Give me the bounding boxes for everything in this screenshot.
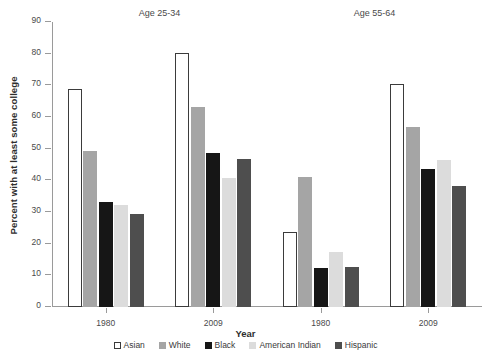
bar-white [298,177,312,307]
legend-label: White [169,340,191,350]
bar-black [206,153,220,307]
bar-black [421,169,435,307]
y-axis-line [52,22,53,307]
x-axis-tick [213,308,214,313]
bar-asian [390,84,404,307]
bar-black [99,202,113,307]
x-axis-tick [321,308,322,313]
y-axis-tick: 0 [45,306,51,307]
legend-label: Black [215,340,236,350]
bar-hispanic [345,267,359,307]
bar-amindian [222,178,236,307]
x-axis-tick [106,308,107,313]
bar-hispanic [237,159,251,307]
bar-white [83,151,97,307]
bar-amindian [114,205,128,307]
x-axis-tick-label: 1980 [311,318,330,328]
bar-white [191,107,205,307]
y-axis-tick-label: 10 [32,268,41,279]
y-axis-tick-label: 30 [32,205,41,216]
y-axis-tick: 40 [45,179,51,180]
legend-swatch-hispanic-icon [335,342,342,349]
bar-asian [283,232,297,307]
y-axis-tick: 60 [45,116,51,117]
bar-chart-figure: Percent with at least some college 01020… [0,0,491,364]
legend-swatch-black-icon [205,342,212,349]
legend-item-white: White [159,340,191,350]
legend-label: American Indian [259,340,320,350]
legend-item-black: Black [205,340,236,350]
bar-white [406,127,420,308]
bar-amindian [329,252,343,307]
bar-amindian [437,160,451,307]
legend-swatch-amindian-icon [249,342,256,349]
legend-item-hispanic: Hispanic [335,340,378,350]
y-axis-tick-label: 20 [32,237,41,248]
y-axis-tick-label: 60 [32,110,41,121]
y-axis-tick-label: 70 [32,78,41,89]
bar-black [314,268,328,307]
y-axis-tick-label: 80 [32,47,41,58]
y-axis-tick: 50 [45,148,51,149]
plot-area: 0102030405060708090 Age 25-3419802009Age… [52,22,482,307]
y-axis-tick: 80 [45,53,51,54]
y-axis-title-text: Percent with at least some college [8,76,19,234]
x-axis-tick-label: 1980 [96,318,115,328]
y-axis-tick-label: 40 [32,173,41,184]
y-axis-tick: 70 [45,84,51,85]
x-axis-tick-label: 2009 [204,318,223,328]
y-axis-tick: 90 [45,21,51,22]
y-axis-tick-label: 90 [32,15,41,26]
legend-label: Hispanic [345,340,378,350]
legend-swatch-asian-icon [114,342,121,349]
y-axis-tick-label: 0 [36,300,41,311]
panel-title: Age 55-64 [354,8,396,18]
legend-item-amindian: American Indian [249,340,320,350]
x-axis-tick [428,308,429,313]
bar-asian [68,89,82,308]
y-axis-title: Percent with at least some college [2,0,24,310]
y-axis-tick: 10 [45,274,51,275]
x-axis-title: Year [0,328,491,339]
x-axis-tick-label: 2009 [419,318,438,328]
y-axis-tick: 30 [45,211,51,212]
y-axis-tick-label: 50 [32,142,41,153]
bar-hispanic [130,214,144,307]
legend-item-asian: Asian [114,340,145,350]
legend-label: Asian [124,340,145,350]
bar-asian [175,53,189,307]
y-axis-tick: 20 [45,243,51,244]
legend: AsianWhiteBlackAmerican IndianHispanic [0,340,491,350]
panel-title: Age 25-34 [139,8,181,18]
bar-hispanic [452,186,466,307]
legend-swatch-white-icon [159,342,166,349]
